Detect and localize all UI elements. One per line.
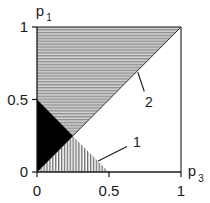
x-tick-label-0: 0 [33,182,41,199]
y-axis-label-subscript: 1 [46,12,52,23]
y-axis-label: p 1 [36,2,52,23]
annotation-2: 2 [138,72,153,110]
x-axis-label-subscript: 3 [198,173,204,184]
y-tick-label-0: 0 [20,163,28,180]
annotation-2-leader-line [138,72,145,91]
annotation-1-leader-line [98,147,127,162]
annotation-2-label: 2 [145,94,153,110]
x-tick-label-05: 0.5 [99,182,120,199]
annotation-1: 1 [98,134,141,161]
x-tick-label-1: 1 [177,182,185,199]
y-tick-label-05: 0.5 [7,91,28,108]
x-axis-label-main: p [188,162,196,179]
y-tick-label-1: 1 [20,18,28,35]
plot-svg: 1 0.5 0 0 0.5 1 p 1 p 3 2 1 [0,0,210,203]
region-diagram-figure: 1 0.5 0 0 0.5 1 p 1 p 3 2 1 [0,0,210,203]
annotation-1-label: 1 [133,134,141,150]
x-axis-label: p 3 [188,162,204,184]
y-axis-label-main: p [36,2,44,19]
